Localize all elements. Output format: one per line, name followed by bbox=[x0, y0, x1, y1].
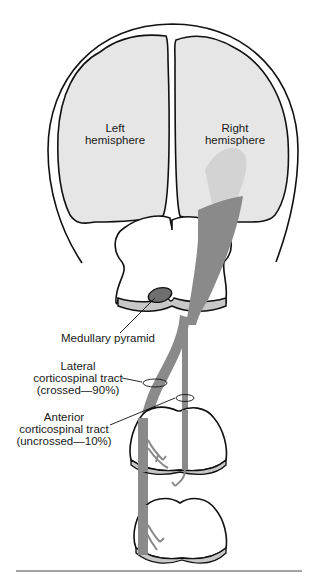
anterior-tract-through-upper bbox=[182, 410, 188, 470]
left-hemisphere-label: Left hemisphere bbox=[80, 122, 150, 146]
corticospinal-diagram bbox=[0, 0, 325, 581]
lateral-corticospinal-label: Lateral corticospinal tract (crossed—90%… bbox=[28, 360, 128, 396]
lateral-tract-through-upper bbox=[138, 418, 148, 472]
anterior-corticospinal-label: Anterior corticospinal tract (uncrossed—… bbox=[14, 411, 114, 447]
lateral-tract-through-lower bbox=[138, 505, 148, 555]
medullary-pyramid-label: Medullary pyramid bbox=[58, 332, 158, 344]
right-hemisphere-label: Right hemisphere bbox=[200, 122, 270, 146]
